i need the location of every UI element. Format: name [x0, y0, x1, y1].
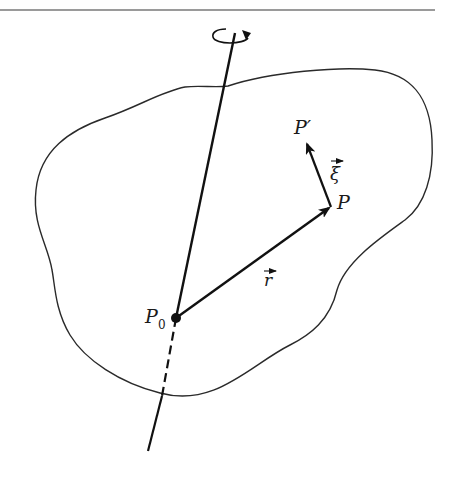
label-p0-subscript: 0 [158, 318, 166, 332]
vector-xi-arrow [307, 144, 331, 207]
label-p0: P [144, 305, 159, 327]
body-outline [35, 69, 432, 396]
label-r: r [264, 270, 273, 290]
rotation-axis-lower [148, 396, 162, 451]
rotation-direction-icon [213, 29, 251, 43]
label-r-group: r [264, 270, 276, 290]
label-p: P [336, 191, 351, 213]
rigid-body-diagram: P′ ξ P r P 0 [0, 0, 456, 477]
vector-r-arrow [176, 208, 329, 318]
rotation-axis-upper [176, 33, 235, 318]
label-xi: ξ [330, 163, 341, 184]
label-p-prime: P′ [293, 116, 312, 138]
label-p0-group: P 0 [144, 305, 166, 332]
label-xi-group: ξ [330, 161, 343, 184]
